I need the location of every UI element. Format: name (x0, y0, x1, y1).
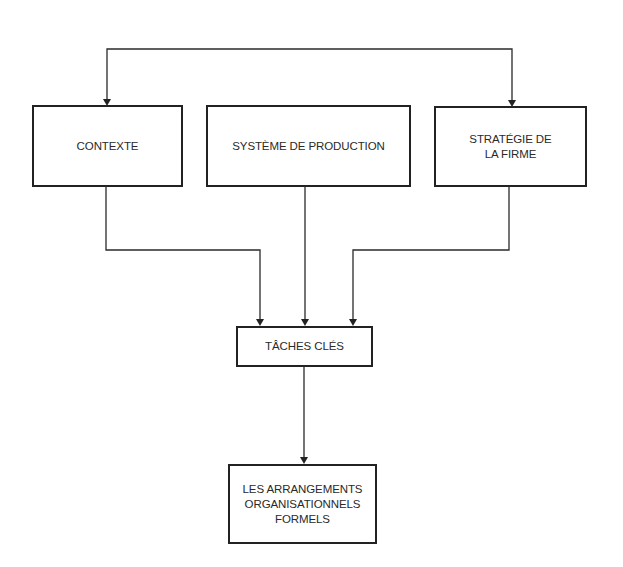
node-systeme-label: SYSTÈME DE PRODUCTION (207, 106, 410, 186)
connector-top-loop (103, 49, 516, 107)
arrow-down-icon (256, 319, 264, 326)
arrow-down-icon (349, 319, 357, 326)
node-arrangements-label: LES ARRANGEMENTS ORGANISATIONNELS FORMEL… (229, 465, 376, 543)
arrow-down-icon (103, 99, 111, 106)
node-strategie-label: STRATÉGIE DE LA FIRME (435, 107, 586, 186)
arrow-down-icon (508, 100, 516, 107)
connector-contexte-taches (106, 186, 264, 326)
connector-systeme-taches (301, 186, 309, 326)
node-contexte-label: CONTEXTE (33, 106, 182, 186)
node-taches-label: TÂCHES CLÉS (237, 327, 372, 366)
connector-taches-arrangements (300, 366, 308, 464)
connector-strategie-taches (349, 186, 509, 326)
arrow-down-icon (301, 319, 309, 326)
arrow-down-icon (300, 457, 308, 464)
